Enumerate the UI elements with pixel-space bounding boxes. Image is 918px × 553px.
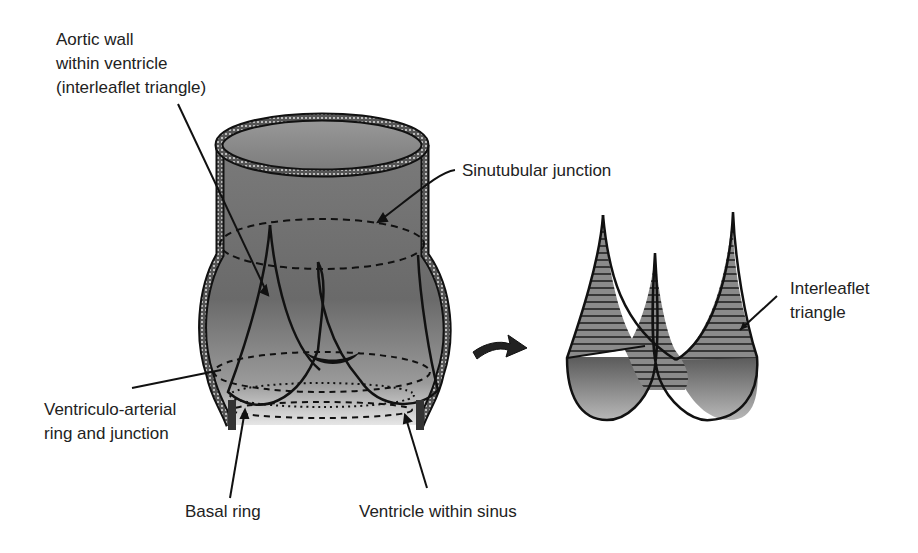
label-sinutubular-junction: Sinutubular junction: [462, 160, 611, 181]
label-ventriculo-arterial-ring: Ventriculo-arterial ring and junction: [44, 398, 176, 446]
label-ventricle-within-sinus: Ventricle within sinus: [359, 501, 517, 522]
curved-arrow-icon: [473, 335, 527, 359]
label-aortic-wall-within-ventricle: Aortic wall within ventricle (interleafl…: [56, 28, 206, 100]
interleaflet-triangles-unrolled: [567, 212, 777, 420]
label-interleaflet-triangle: Interleaflet triangle: [790, 277, 869, 325]
label-basal-ring: Basal ring: [185, 501, 261, 522]
aortic-root-vessel: [203, 117, 448, 430]
